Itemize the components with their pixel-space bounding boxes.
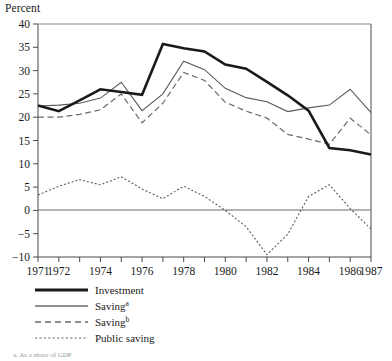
chart-figure: Percent 4035302520151050−5−10 1971197219… bbox=[0, 0, 392, 361]
y-axis-tick-label: 35 bbox=[19, 41, 31, 53]
legend-label-saving-b: Savingb bbox=[95, 315, 130, 328]
x-axis-tick-label: 1980 bbox=[214, 265, 237, 277]
legend-superscript: b bbox=[126, 315, 130, 324]
x-axis-tick-label: 1986 bbox=[339, 265, 362, 277]
y-axis-ticks: 4035302520151050−5−10 bbox=[12, 18, 38, 263]
legend-label-investment: Investment bbox=[95, 284, 144, 296]
y-axis-tick-label: 40 bbox=[19, 18, 31, 30]
legend-label-public-saving: Public saving bbox=[95, 332, 155, 344]
footnote-text: a. As a share of GDP bbox=[13, 351, 72, 359]
y-axis-tick-label: 20 bbox=[19, 111, 31, 123]
x-axis-tick-label: 1971 bbox=[27, 265, 50, 277]
y-axis-tick-label: 30 bbox=[19, 65, 31, 77]
y-axis-tick-label: −5 bbox=[18, 228, 30, 240]
legend-item-saving-a[interactable]: Savinga bbox=[35, 299, 130, 312]
x-axis-tick-label: 1976 bbox=[131, 265, 154, 277]
legend-item-public-saving[interactable]: Public saving bbox=[35, 332, 155, 344]
y-axis-title: Percent bbox=[5, 2, 40, 14]
y-axis-tick-label: 10 bbox=[19, 158, 31, 170]
x-axis-tick-label: 1972 bbox=[47, 265, 70, 277]
legend-label-saving-a: Savinga bbox=[95, 299, 130, 312]
y-axis-tick-label: −10 bbox=[12, 251, 30, 263]
x-axis-tick-label: 1987 bbox=[360, 265, 383, 277]
y-axis-tick-label: 25 bbox=[19, 88, 31, 100]
x-axis-tick-label: 1974 bbox=[89, 265, 112, 277]
series-line-public-saving bbox=[38, 177, 371, 255]
x-axis-tick-label: 1984 bbox=[297, 265, 320, 277]
legend-superscript: a bbox=[126, 299, 130, 308]
legend-item-saving-b[interactable]: Savingb bbox=[35, 315, 130, 328]
y-axis-tick-label: 5 bbox=[24, 181, 30, 193]
series-line-saving-a bbox=[38, 61, 371, 112]
chart-legend: InvestmentSavingaSavingbPublic saving bbox=[35, 284, 155, 344]
series-group bbox=[38, 44, 371, 255]
y-axis-tick-label: 15 bbox=[19, 135, 31, 147]
x-axis-tick-label: 1978 bbox=[172, 265, 195, 277]
x-axis-ticks: 1971197219741976197819801982198419861987 bbox=[27, 257, 383, 277]
x-axis-tick-label: 1982 bbox=[255, 265, 278, 277]
legend-item-investment[interactable]: Investment bbox=[35, 284, 144, 296]
series-line-investment bbox=[38, 44, 371, 154]
y-axis-tick-label: 0 bbox=[24, 204, 30, 216]
chart-canvas: 4035302520151050−5−10 197119721974197619… bbox=[0, 0, 392, 361]
